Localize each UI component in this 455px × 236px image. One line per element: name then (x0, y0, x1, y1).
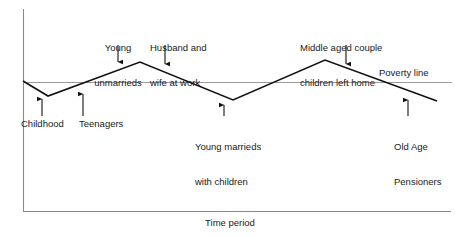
annotation-young-marrieds-line2: with children (195, 176, 285, 188)
annotation-old-age-line1: Old Age (394, 141, 455, 153)
annotation-young-marrieds-with-children: Young marrieds with children (195, 118, 285, 210)
annotation-childhood: Childhood (21, 118, 79, 130)
x-axis-title: Time period (160, 217, 300, 228)
figure-canvas: Young unmarrieds Husband and wife at wor… (0, 0, 455, 236)
annotation-middle-aged-couple: Middle aged couple children left home (300, 19, 430, 111)
annotation-husband-and-wife-at-work: Husband and wife at work (150, 19, 250, 111)
annotation-husband-wife-line2: wife at work (150, 77, 250, 89)
poverty-line-label: Poverty line (379, 67, 455, 79)
annotation-husband-wife-line1: Husband and (150, 42, 250, 54)
annotation-young-marrieds-line1: Young marrieds (195, 141, 285, 153)
annotation-old-age-line2: Pensioners (394, 176, 455, 188)
annotation-teenagers: Teenagers (79, 118, 139, 130)
annotation-old-age-pensioners: Old Age Pensioners (394, 118, 455, 210)
annotation-middle-aged-line1: Middle aged couple (300, 42, 430, 54)
